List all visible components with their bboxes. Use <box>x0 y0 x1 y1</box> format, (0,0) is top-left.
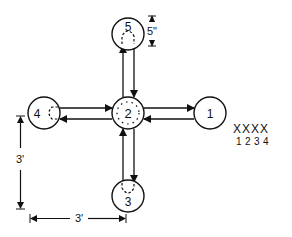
node-3: 3 <box>112 180 144 212</box>
node-4: 4 <box>28 97 60 129</box>
legend-number-4: 4 <box>263 136 269 147</box>
legend: X X X X 1 2 3 4 <box>233 122 269 147</box>
node-4-label: 4 <box>34 107 41 121</box>
dimension-node-diameter: 5" <box>147 15 157 47</box>
legend-mark-3: X <box>251 122 259 136</box>
legend-number-1: 1 <box>236 136 242 147</box>
node-1: 1 <box>194 97 226 129</box>
node-5: 5 <box>112 18 144 50</box>
dimension-horizontal-spacing: 3' <box>30 212 126 224</box>
dimension-diameter-label: 5" <box>147 25 157 37</box>
legend-mark-2: X <box>242 122 250 136</box>
node-2: 2 <box>112 97 144 129</box>
dimension-horizontal-label: 3' <box>75 212 83 224</box>
legend-number-2: 2 <box>245 136 251 147</box>
legend-mark-1: X <box>233 122 241 136</box>
legend-mark-4: X <box>260 122 268 136</box>
dimension-vertical-spacing: 3' <box>16 116 25 209</box>
node-1-label: 1 <box>207 107 214 121</box>
node-5-label: 5 <box>125 20 132 34</box>
node-2-label: 2 <box>124 106 131 121</box>
layout-diagram: 5 2 4 1 3 5" 3' <box>0 0 292 237</box>
legend-number-3: 3 <box>254 136 260 147</box>
node-3-label: 3 <box>125 195 132 209</box>
dimension-vertical-label: 3' <box>16 153 24 165</box>
